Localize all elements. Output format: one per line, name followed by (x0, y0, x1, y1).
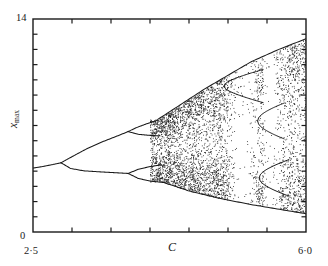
x-axis-right-tick-label: 6·0 (298, 246, 312, 257)
branch-chaos-upper-envelope (158, 39, 306, 120)
y-axis-top-tick-label: 14 (16, 13, 27, 24)
branch-period2-upper (61, 132, 128, 163)
window-branch-upper-0 (224, 70, 263, 87)
x-axis-title: C (168, 240, 176, 255)
bifurcation-branches (33, 39, 306, 214)
branch-period4-lower-b (128, 173, 164, 182)
bifurcation-plot (0, 0, 328, 266)
branch-period2-lower (61, 163, 128, 174)
bifurcation-figure: 14 0 2·5 6·0 C xmax (0, 0, 328, 266)
y-axis-title-base: x (7, 123, 19, 128)
x-axis-left-tick-label: 2·5 (24, 246, 38, 257)
branch-period4-upper-a (128, 120, 158, 131)
branch-fixed-point (33, 163, 61, 168)
chaotic-attractor-points (150, 40, 307, 213)
window-branch-upper-1 (258, 103, 285, 121)
window-branch-lower-1 (258, 121, 285, 139)
window-branch-lower-0 (224, 86, 263, 103)
y-axis-title: xmax (7, 96, 19, 142)
y-axis-title-subscript: max (12, 110, 21, 123)
y-axis-bottom-tick-label: 0 (20, 231, 25, 242)
